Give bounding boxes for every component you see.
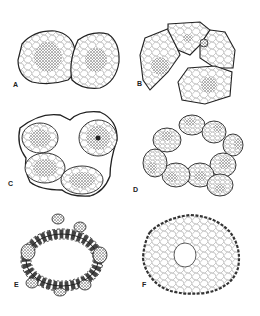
- panel-a-cells: [18, 31, 119, 88]
- panel-label-f: F: [142, 281, 146, 288]
- panel-e-ring: [21, 214, 107, 296]
- panel-d-cells: [143, 115, 243, 196]
- panel-label-d: D: [133, 186, 138, 193]
- panel-label-a: A: [13, 81, 18, 88]
- panel-label-b: B: [137, 80, 142, 87]
- panel-b-cells: [140, 22, 235, 104]
- panel-c-cells: [19, 112, 117, 196]
- panel-label-e: E: [14, 281, 19, 288]
- panel-f-mass: [143, 215, 239, 294]
- panel-label-c: C: [8, 180, 13, 187]
- figure-canvas: [0, 0, 260, 316]
